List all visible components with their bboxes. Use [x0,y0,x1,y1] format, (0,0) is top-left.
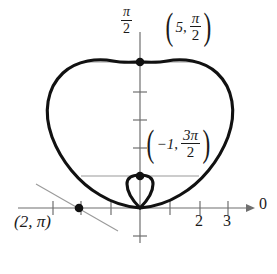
point-label-inner-theta-numerator: 3π [181,128,200,144]
point-label-inner-r: −1 [157,137,175,152]
point-label-minus1-3pi-over-2: ( −1 , 3π 2 ) [144,126,212,164]
vertical-axis-label: π 2 [121,6,132,37]
marked-point-top [136,58,145,67]
open-paren-glyph: ( [165,8,173,46]
polar-graph-figure: π 2 ( 5 , π 2 ) ( −1 , 3π 2 ) (2, π) [0,0,277,274]
marked-point-left [75,204,84,213]
open-paren-glyph: ( [146,125,154,163]
vertical-axis-label-numerator: π [121,5,132,20]
point-label-inner-comma: , [174,137,181,152]
point-label-5-pi-over-2: ( 5 , π 2 ) [163,9,214,47]
close-paren-glyph: ) [202,125,210,163]
point-label-inner-theta-denominator: 2 [181,144,200,160]
vertical-axis-label-denominator: 2 [121,21,132,36]
polar-plot-canvas [0,0,277,274]
point-label-top-r: 5 [176,20,184,35]
close-paren-glyph: ) [204,8,212,46]
marked-point-inner [136,172,145,181]
point-label-top-theta-numerator: π [190,11,202,27]
point-label-top-theta-denominator: 2 [190,27,202,43]
x-tick-label-3: 3 [223,213,231,229]
point-label-top-comma: , [183,20,190,35]
x-tick-label-2: 2 [195,213,203,229]
polar-axis-label-zero: 0 [259,196,267,212]
point-label-2-pi: (2, π) [14,213,51,230]
x-axis-arrowhead [246,204,255,212]
